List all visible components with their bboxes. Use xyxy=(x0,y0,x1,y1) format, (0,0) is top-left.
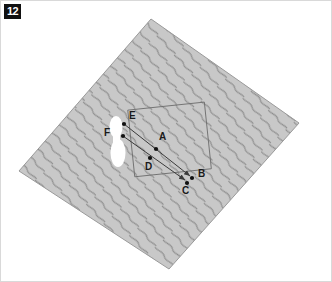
point-B xyxy=(190,176,194,180)
point-label-C: C xyxy=(182,186,189,196)
point-A xyxy=(154,147,158,151)
blob-neck xyxy=(113,133,120,145)
textured-square xyxy=(11,11,311,281)
point-F xyxy=(121,134,125,138)
figure-frame: 12 xyxy=(0,0,332,282)
point-label-B: B xyxy=(198,169,205,179)
point-label-A: A xyxy=(159,132,166,142)
point-label-D: D xyxy=(145,162,152,172)
point-D xyxy=(148,156,152,160)
diagram-canvas xyxy=(1,1,332,282)
point-E xyxy=(122,122,126,126)
point-label-E: E xyxy=(129,111,136,121)
point-label-F: F xyxy=(104,128,110,138)
